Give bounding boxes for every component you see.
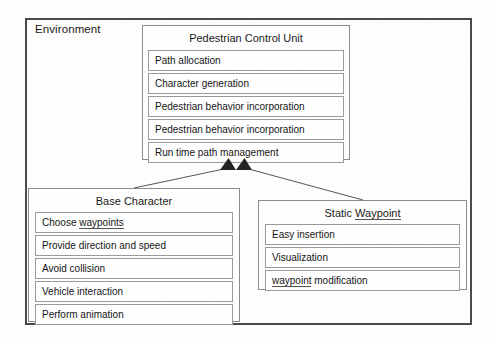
class-row[interactable]: Pedestrian behavior incorporation xyxy=(148,96,344,117)
class-title-static-waypoint: Static Waypoint xyxy=(259,201,466,224)
class-rows-base-character: Choose waypoints Provide direction and s… xyxy=(29,212,239,330)
class-row[interactable]: Path allocation xyxy=(148,50,344,71)
class-row[interactable]: Pedestrian behavior incorporation xyxy=(148,119,344,140)
class-row[interactable]: Perform animation xyxy=(35,304,233,325)
class-row[interactable]: Easy insertion xyxy=(265,224,460,245)
class-row-label: Pedestrian behavior incorporation xyxy=(155,124,305,135)
class-rows-static-waypoint: Easy insertion Visualization waypoint mo… xyxy=(259,224,466,296)
class-row[interactable]: Choose waypoints xyxy=(35,212,233,233)
diagram-canvas: Environment Pedestrian Control Unit Path… xyxy=(0,0,494,344)
class-row-label: Provide direction and speed xyxy=(42,240,166,251)
class-row[interactable]: Avoid collision xyxy=(35,258,233,279)
class-row[interactable]: Visualization xyxy=(265,247,460,268)
class-row-label: Perform animation xyxy=(42,309,124,320)
class-row[interactable]: waypoint modification xyxy=(265,270,460,291)
class-row[interactable]: Vehicle interaction xyxy=(35,281,233,302)
class-row[interactable]: Run time path management xyxy=(148,142,344,163)
class-title-base-character: Base Character xyxy=(29,189,239,212)
class-box-pedestrian-control-unit[interactable]: Pedestrian Control Unit Path allocation … xyxy=(142,25,350,160)
environment-label: Environment xyxy=(35,23,101,35)
class-row-label: Pedestrian behavior incorporation xyxy=(155,101,305,112)
class-row-label: Choose waypoints xyxy=(42,217,124,228)
class-row-label: Easy insertion xyxy=(272,229,335,240)
class-box-base-character[interactable]: Base Character Choose waypoints Provide … xyxy=(28,188,240,322)
class-title-pedestrian-control-unit: Pedestrian Control Unit xyxy=(143,26,349,50)
class-box-static-waypoint[interactable]: Static Waypoint Easy insertion Visualiza… xyxy=(258,200,467,290)
class-row-label: Visualization xyxy=(272,252,328,263)
class-row[interactable]: Provide direction and speed xyxy=(35,235,233,256)
class-row[interactable]: Character generation xyxy=(148,73,344,94)
class-row-label: Vehicle interaction xyxy=(42,286,123,297)
class-row-label: Character generation xyxy=(155,78,249,89)
class-rows-pedestrian-control-unit: Path allocation Character generation Ped… xyxy=(143,50,349,167)
class-row-label: waypoint modification xyxy=(272,275,368,286)
class-row-label: Path allocation xyxy=(155,55,221,66)
class-row-label: Avoid collision xyxy=(42,263,105,274)
class-row-label: Run time path management xyxy=(155,147,278,158)
